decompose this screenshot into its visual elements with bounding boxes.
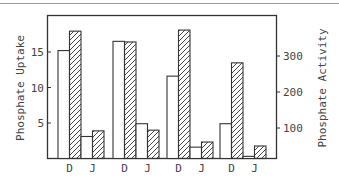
bar-activity-J bbox=[202, 142, 214, 158]
right-axis-ticks: 100200300 bbox=[277, 50, 303, 135]
bar-uptake-D bbox=[58, 51, 70, 159]
y-tick-label: 10 bbox=[31, 82, 44, 95]
bar-uptake-J bbox=[243, 156, 255, 158]
x-tick-label: D bbox=[66, 162, 73, 175]
bar-uptake-D bbox=[220, 124, 232, 159]
bar-uptake-D bbox=[167, 76, 179, 158]
bar-uptake-J bbox=[81, 136, 93, 158]
bar-uptake-D bbox=[113, 41, 125, 158]
bar-activity-J bbox=[93, 131, 105, 159]
y2-tick-label: 200 bbox=[283, 86, 303, 99]
x-tick-label: J bbox=[144, 162, 151, 175]
x-axis-labels: DJDJDJDJ bbox=[66, 162, 258, 175]
y2-tick-label: 100 bbox=[283, 122, 303, 135]
bar-chart: 51015 100200300 DJDJDJDJ Phosphate Uptak… bbox=[0, 0, 339, 181]
x-tick-label: D bbox=[228, 162, 235, 175]
y2-axis-label: Phosphate Activity bbox=[316, 28, 329, 148]
x-tick-label: D bbox=[121, 162, 128, 175]
bar-uptake-J bbox=[190, 147, 202, 158]
bar-activity-J bbox=[255, 146, 267, 159]
bar-activity-D bbox=[232, 63, 244, 159]
bar-activity-D bbox=[179, 30, 191, 158]
bar-uptake-J bbox=[136, 124, 148, 159]
bar-activity-D bbox=[70, 31, 82, 158]
bar-activity-J bbox=[148, 130, 160, 158]
y-tick-label: 5 bbox=[37, 117, 44, 130]
x-tick-label: D bbox=[175, 162, 182, 175]
y-axis-label: Phosphate Uptake bbox=[14, 35, 27, 141]
x-tick-label: J bbox=[198, 162, 205, 175]
x-tick-label: J bbox=[89, 162, 96, 175]
x-tick-label: J bbox=[251, 162, 258, 175]
y-tick-label: 15 bbox=[31, 46, 44, 59]
bars-group bbox=[58, 30, 266, 158]
bar-activity-D bbox=[125, 42, 137, 159]
y2-tick-label: 300 bbox=[283, 50, 303, 63]
